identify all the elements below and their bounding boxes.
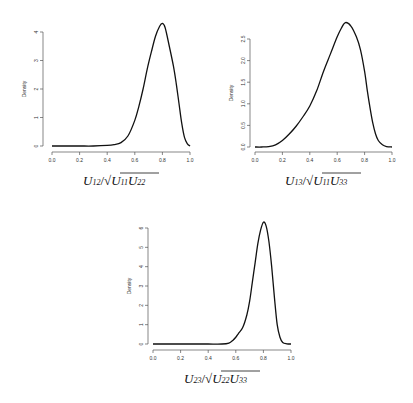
y-tick-label: 4 bbox=[33, 30, 39, 33]
x-tick-label: 0.6 bbox=[334, 157, 341, 163]
x-tick-label: 0.6 bbox=[131, 157, 138, 163]
y-tick-label: 4 bbox=[138, 265, 144, 268]
x-tick-label: 0.4 bbox=[205, 355, 212, 361]
x-axis-label: U13/√U11U33 bbox=[285, 173, 347, 188]
y-tick-label: 2 bbox=[138, 304, 144, 307]
x-axis-label: U23/√U22U33 bbox=[184, 371, 247, 386]
x-tick-label: 1.0 bbox=[389, 157, 396, 163]
figure-canvas: 0.00.20.40.60.81.0 01234 Density U12/√U1… bbox=[0, 0, 413, 403]
y-axis-label: Density bbox=[126, 277, 132, 294]
x-axis-label: U12/√U11U22 bbox=[83, 173, 145, 188]
x-tick-label: 0.8 bbox=[159, 157, 166, 163]
y-tick-label: 1.5 bbox=[240, 79, 246, 86]
y-tick-label: 0.5 bbox=[240, 122, 246, 129]
x-tick-label: 0.0 bbox=[150, 355, 157, 361]
y-tick-label: 0.0 bbox=[240, 143, 246, 150]
y-tick-label: 2 bbox=[33, 87, 39, 90]
y-axis-label: Density bbox=[21, 80, 27, 97]
density-plot-u23: 0.00.20.40.60.81.0 0123456 Density U23/√… bbox=[126, 222, 295, 386]
y-tick-label: 5 bbox=[138, 246, 144, 249]
y-axis-label: Density bbox=[228, 84, 234, 101]
x-tick-label: 0.8 bbox=[260, 355, 267, 361]
y-tick-label: 2.5 bbox=[240, 35, 246, 42]
y-tick-label: 3 bbox=[138, 284, 144, 287]
density-curve bbox=[153, 222, 291, 344]
x-tick-label: 0.0 bbox=[252, 157, 259, 163]
y-tick-label: 0 bbox=[33, 144, 39, 147]
y-tick-label: 1 bbox=[138, 323, 144, 326]
y-tick-label: 2.0 bbox=[240, 57, 246, 64]
x-tick-label: 0.8 bbox=[361, 157, 368, 163]
y-axis: 0.00.51.01.52.02.5 bbox=[240, 35, 250, 150]
x-tick-label: 0.2 bbox=[177, 355, 184, 361]
x-tick-label: 0.2 bbox=[76, 157, 83, 163]
x-axis: 0.00.20.40.60.81.0 bbox=[150, 350, 295, 361]
density-plot-u13: 0.00.20.40.60.81.0 0.00.51.01.52.02.5 De… bbox=[228, 23, 396, 188]
y-tick-label: 6 bbox=[138, 226, 144, 229]
y-tick-label: 1 bbox=[33, 116, 39, 119]
density-plot-u12: 0.00.20.40.60.81.0 01234 Density U12/√U1… bbox=[21, 23, 194, 188]
y-tick-label: 1.0 bbox=[240, 100, 246, 107]
x-tick-label: 0.4 bbox=[104, 157, 111, 163]
x-tick-label: 1.0 bbox=[288, 355, 295, 361]
y-tick-label: 0 bbox=[138, 342, 144, 345]
x-tick-label: 1.0 bbox=[187, 157, 194, 163]
x-tick-label: 0.6 bbox=[232, 355, 239, 361]
y-tick-label: 3 bbox=[33, 59, 39, 62]
x-tick-label: 0.0 bbox=[49, 157, 56, 163]
x-tick-label: 0.4 bbox=[306, 157, 313, 163]
density-curve bbox=[52, 23, 190, 146]
y-axis: 01234 bbox=[33, 30, 43, 147]
x-axis: 0.00.20.40.60.81.0 bbox=[252, 152, 396, 163]
density-curve bbox=[255, 23, 392, 148]
x-tick-label: 0.2 bbox=[279, 157, 286, 163]
x-axis: 0.00.20.40.60.81.0 bbox=[49, 152, 194, 163]
y-axis: 0123456 bbox=[138, 226, 148, 345]
